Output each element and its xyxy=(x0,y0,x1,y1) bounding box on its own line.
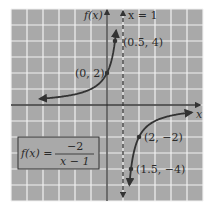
y-axis-label: f(x) xyxy=(83,9,103,22)
point-0-2 xyxy=(105,71,110,76)
point-label-2-neg2: (2, −2) xyxy=(144,131,183,144)
point-label-0.5-4: (0.5, 4) xyxy=(123,36,163,49)
formula-lhs: f(x) = xyxy=(20,147,53,160)
point-2-neg2 xyxy=(137,135,142,140)
point-1.5-neg4 xyxy=(129,167,134,172)
x-axis-label: x xyxy=(196,108,203,121)
point-label-0-2: (0, 2) xyxy=(75,67,105,80)
formula-box: f(x) = −2 x − 1 xyxy=(18,137,99,169)
formula-denominator: x − 1 xyxy=(60,155,89,168)
point-label-1.5-neg4: (1.5, −4) xyxy=(136,163,185,176)
function-graph: f(x) x x = 1 (0.5, 4) (0, 2) (2, −2) (1.… xyxy=(0,0,209,217)
point-0.5-4 xyxy=(113,39,118,44)
formula-numerator: −2 xyxy=(67,140,83,153)
asymptote-label: x = 1 xyxy=(128,9,157,22)
